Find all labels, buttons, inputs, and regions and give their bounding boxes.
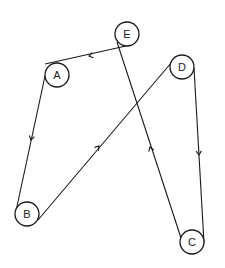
node-label: D — [178, 61, 186, 73]
node-label: C — [188, 236, 196, 248]
nodes-group: ABCDE — [15, 22, 204, 254]
node-label: B — [23, 208, 30, 220]
edge-d-to-c — [194, 68, 204, 243]
node-b: B — [15, 202, 39, 226]
node-label: A — [53, 69, 61, 81]
node-label: E — [123, 28, 130, 40]
node-a: A — [45, 63, 69, 87]
node-e: E — [115, 22, 139, 46]
diagram-canvas: ABCDE — [0, 0, 225, 268]
edge-line — [45, 46, 126, 64]
edge-e-to-a — [45, 46, 126, 64]
directed-graph: ABCDE — [0, 0, 225, 268]
edge-a-to-b — [16, 76, 45, 211]
node-d: D — [170, 55, 194, 79]
edge-line — [16, 76, 45, 211]
node-c: C — [180, 230, 204, 254]
